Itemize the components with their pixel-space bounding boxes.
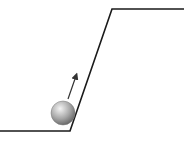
- ramp-diagram: [0, 0, 189, 142]
- ramp-profile: [0, 9, 184, 131]
- diagram-canvas: [0, 0, 189, 142]
- ball: [51, 101, 75, 125]
- velocity-arrow: [68, 76, 76, 99]
